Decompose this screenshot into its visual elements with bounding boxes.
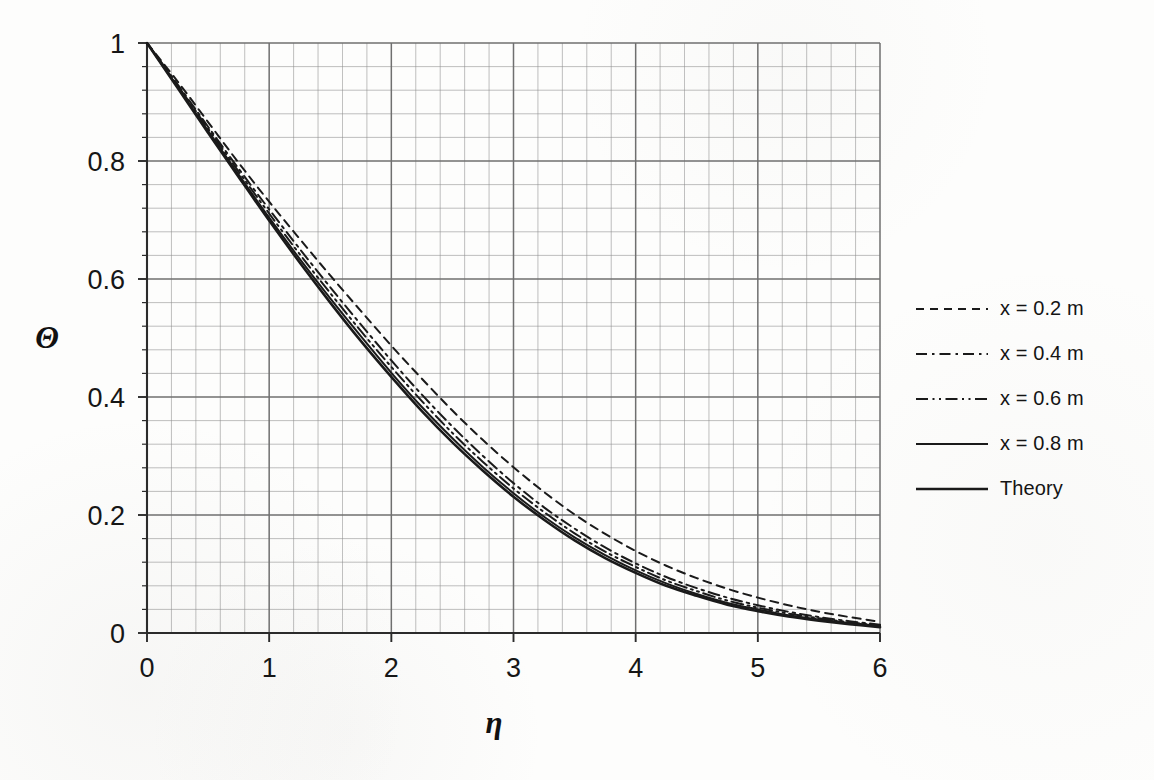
chart-figure: 0123456 00.20.40.60.81 η Θ x = 0.2 mx = … bbox=[0, 0, 1154, 780]
legend-swatch bbox=[915, 482, 989, 496]
legend-item-label: x = 0.6 m bbox=[1000, 387, 1084, 410]
axis-tick-marks bbox=[138, 43, 880, 642]
legend-item-label: x = 0.4 m bbox=[1000, 342, 1084, 365]
x-tick-label: 4 bbox=[628, 653, 643, 683]
major-gridlines bbox=[147, 43, 880, 633]
y-axis-tick-labels: 00.20.40.60.81 bbox=[87, 29, 125, 649]
x-tick-label: 2 bbox=[384, 653, 399, 683]
legend-item: x = 0.2 m bbox=[915, 286, 1130, 331]
x-axis-tick-labels: 0123456 bbox=[139, 653, 887, 683]
y-tick-label: 0.4 bbox=[87, 383, 125, 413]
legend-swatch bbox=[915, 437, 989, 451]
y-tick-label: 0.6 bbox=[87, 265, 125, 295]
x-tick-label: 0 bbox=[139, 653, 154, 683]
legend-item-label: Theory bbox=[1000, 477, 1063, 500]
y-axis-title: Θ bbox=[35, 320, 59, 355]
x-tick-label: 5 bbox=[750, 653, 765, 683]
legend-swatch bbox=[915, 302, 989, 316]
x-axis-title: η bbox=[485, 705, 502, 740]
legend-item-label: x = 0.2 m bbox=[1000, 297, 1084, 320]
chart-legend: x = 0.2 mx = 0.4 mx = 0.6 mx = 0.8 mTheo… bbox=[915, 286, 1130, 511]
y-tick-label: 0 bbox=[110, 619, 125, 649]
legend-item: x = 0.6 m bbox=[915, 376, 1130, 421]
y-tick-label: 1 bbox=[110, 29, 125, 59]
y-tick-label: 0.2 bbox=[87, 501, 125, 531]
legend-item-label: x = 0.8 m bbox=[1000, 432, 1084, 455]
y-tick-label: 0.8 bbox=[87, 147, 125, 177]
legend-item: x = 0.8 m bbox=[915, 421, 1130, 466]
x-tick-label: 1 bbox=[262, 653, 277, 683]
x-tick-label: 6 bbox=[872, 653, 887, 683]
x-tick-label: 3 bbox=[506, 653, 521, 683]
legend-swatch bbox=[915, 392, 989, 406]
legend-item: Theory bbox=[915, 466, 1130, 511]
legend-item: x = 0.4 m bbox=[915, 331, 1130, 376]
legend-swatch bbox=[915, 347, 989, 361]
